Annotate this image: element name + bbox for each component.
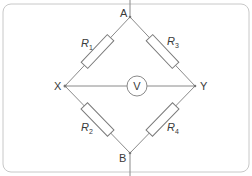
diagram-frame	[3, 4, 249, 172]
node-a-label: A	[120, 7, 128, 19]
node-x-label: X	[54, 80, 62, 92]
node-b-dot	[129, 152, 132, 155]
wheatstone-bridge-diagram: V A B X Y R1 R3 R2 R4	[0, 0, 252, 176]
voltmeter-label: V	[133, 80, 141, 92]
node-a-dot	[129, 16, 132, 19]
node-y-label: Y	[200, 80, 208, 92]
node-b-label: B	[119, 152, 126, 164]
node-y-dot	[194, 85, 197, 88]
node-x-dot	[64, 85, 67, 88]
